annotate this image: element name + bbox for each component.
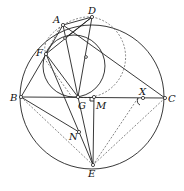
label-X: X xyxy=(138,86,147,97)
dashed-FG xyxy=(44,58,72,97)
inner-circle xyxy=(43,35,105,97)
point-G xyxy=(76,95,79,98)
label-G: G xyxy=(78,100,86,111)
point-A xyxy=(61,23,64,26)
segment-ME xyxy=(93,97,94,165)
angle-mark-X xyxy=(137,98,140,105)
point-E xyxy=(91,163,94,166)
point-N xyxy=(77,130,80,133)
point-M xyxy=(92,95,95,98)
point-B xyxy=(19,95,22,98)
label-A: A xyxy=(52,14,60,25)
point-C xyxy=(163,96,166,99)
label-E: E xyxy=(87,168,96,179)
label-F: F xyxy=(35,47,44,58)
point-F xyxy=(44,52,47,55)
segment-AC xyxy=(63,25,165,98)
label-M: M xyxy=(95,100,107,111)
label-C: C xyxy=(168,93,176,104)
point-P1 xyxy=(64,37,67,40)
label-B: B xyxy=(9,92,17,103)
point-P2 xyxy=(85,56,88,59)
geometry-diagram: A D F B C G M X N E xyxy=(0,0,184,191)
segment-BN xyxy=(21,97,79,132)
segment-D-P1 xyxy=(65,17,92,38)
label-D: D xyxy=(87,5,96,16)
label-N: N xyxy=(68,131,79,142)
segment-AB xyxy=(21,25,63,97)
